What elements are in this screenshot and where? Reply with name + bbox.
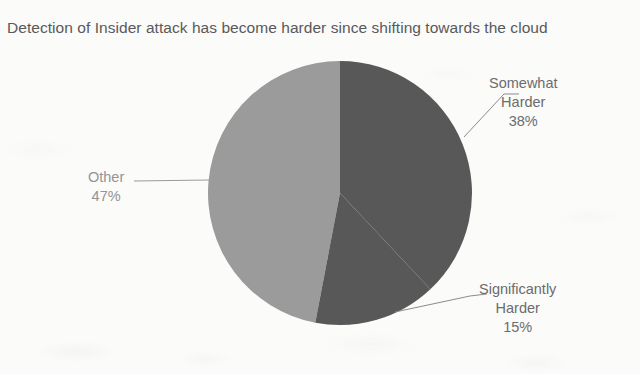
slice-label-other-line1: Other	[88, 168, 124, 187]
slice-label-somewhat-harder-value: 38%	[489, 112, 558, 131]
slice-label-significantly-harder-line2: Harder	[479, 299, 556, 318]
slice-label-significantly-harder-line1: Significantly	[479, 280, 556, 299]
slice-label-other-value: 47%	[88, 187, 124, 206]
slice-label-somewhat-harder-line1: Somewhat	[489, 74, 558, 93]
slice-label-significantly-harder: Significantly Harder 15%	[479, 280, 556, 337]
slice-label-other: Other 47%	[88, 168, 124, 206]
slice-label-somewhat-harder-line2: Harder	[489, 93, 558, 112]
pie-chart-figure: Detection of Insider attack has become h…	[0, 0, 640, 374]
pie-slice-other	[208, 61, 340, 323]
leader-line-other	[134, 180, 209, 181]
slice-label-significantly-harder-value: 15%	[479, 318, 556, 337]
slice-label-somewhat-harder: Somewhat Harder 38%	[489, 74, 558, 131]
